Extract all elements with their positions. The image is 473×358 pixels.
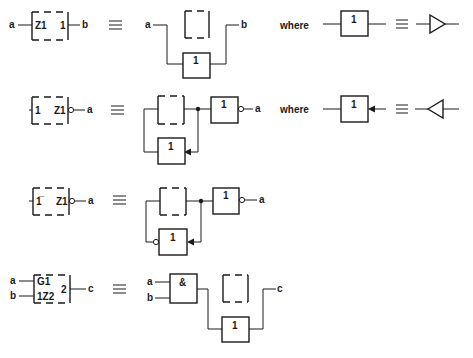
row3-eq-feedback-left <box>146 201 160 242</box>
row3-eq-bottom-gate-label: 1 <box>170 232 176 243</box>
row3-symbol-left-label: 1̅ <box>36 196 45 207</box>
row3-eq-input-negation <box>153 239 158 244</box>
row4-input-b-label: b <box>10 290 16 301</box>
row1-where-label: where <box>279 20 309 31</box>
row1-eq-input-wire <box>153 25 183 64</box>
row2-eq-output-label: a <box>255 103 261 114</box>
row1-eq-gate-label: 1 <box>193 55 199 66</box>
row4-input-a-label: a <box>10 275 16 286</box>
row3-symbol: 1̅ Z1 a <box>29 188 94 215</box>
row3: 1̅ Z1 a 1 1 a <box>29 188 265 255</box>
row4-eq-gate-label: 1 <box>232 320 238 331</box>
row4-eq-and-label: & <box>179 277 186 288</box>
row3-equiv-icon <box>113 196 126 204</box>
row1-eq-output-wire <box>210 25 239 64</box>
row3-eq-top-gate-label: 1 <box>223 190 229 201</box>
row1-eq-output-label: b <box>241 19 247 30</box>
row2-symbol: 1 Z1 a <box>29 97 93 124</box>
row2-symbol-right-label: Z1 <box>54 105 66 116</box>
row4-symbol-label-top: G1 <box>37 276 51 287</box>
row2-where-gate: 1 <box>323 96 386 122</box>
row1-symbol: a Z1 1 b <box>9 12 88 40</box>
row2-negation-circle <box>68 107 73 112</box>
row1-eq-input-label: a <box>145 19 151 30</box>
row2: 1 Z1 a 1 1 a where <box>29 96 459 164</box>
row3-eq-output-label: a <box>259 194 265 205</box>
row4-eq-input-b-label: b <box>147 292 153 303</box>
buffer-triangle-left-icon <box>415 100 459 118</box>
row2-where-gate-label: 1 <box>351 99 357 110</box>
row1-where-equiv-icon <box>396 20 408 28</box>
row2-symbol-left-label: 1 <box>35 105 41 116</box>
row3-symbol-right-label: Z1 <box>56 196 68 207</box>
row2-output-label: a <box>87 104 93 115</box>
row3-arrowhead <box>187 239 194 246</box>
row1-where-gate: 1 <box>323 11 386 36</box>
row1-equivalent: a 1 b <box>145 11 247 78</box>
row4-eq-input-a-label: a <box>147 276 153 287</box>
row1-symbol-right-label: 1 <box>60 20 66 31</box>
row1-output-label: b <box>82 19 88 30</box>
row4: a b G1 1Z2 2 c a b & <box>10 274 283 342</box>
row1-where-gate-label: 1 <box>351 14 357 25</box>
row1-equiv-icon <box>109 21 122 29</box>
row2-eq-feedback-left <box>144 109 158 152</box>
row1-symbol-left-label: Z1 <box>35 20 47 31</box>
row1-input-label: a <box>9 19 15 30</box>
row2-where-equiv-icon <box>396 105 408 113</box>
row3-equivalent: 1 1 a <box>146 188 265 255</box>
row2-where-label: where <box>279 104 309 115</box>
row4-symbol: a b G1 1Z2 2 c <box>10 275 94 303</box>
row4-symbol-right-label: 2 <box>61 284 67 295</box>
row4-equivalent: a b & 1 c <box>147 274 283 342</box>
row2-equivalent: 1 1 a <box>144 96 261 164</box>
row2-equiv-icon <box>111 106 124 114</box>
row4-output-label: c <box>88 283 94 294</box>
row3-negation-circle <box>69 198 74 203</box>
row4-eq-output-label: c <box>277 283 283 294</box>
z-dependency-diagram: a Z1 1 b a 1 b where <box>0 0 473 358</box>
row1: a Z1 1 b a 1 b where <box>9 11 459 78</box>
row2-eq-top-gate-label: 1 <box>221 99 227 110</box>
buffer-triangle-right-icon <box>416 15 459 33</box>
row4-equiv-icon <box>113 285 126 293</box>
row4-symbol-label-bottom: 1Z2 <box>37 291 55 302</box>
row3-output-label: a <box>88 195 94 206</box>
row2-eq-bottom-gate-label: 1 <box>168 141 174 152</box>
